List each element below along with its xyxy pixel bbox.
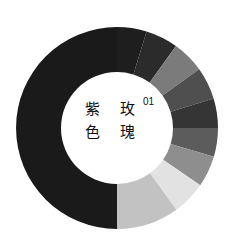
donut-segment-10 <box>16 27 117 229</box>
title-char-se: 色 <box>85 125 100 140</box>
title-char-gui: 瑰 <box>120 125 135 140</box>
donut-chart <box>0 0 233 252</box>
index-number: 01 <box>143 97 154 107</box>
title-char-zi: 紫 <box>85 102 100 117</box>
title-char-mei: 玫 <box>120 102 135 117</box>
